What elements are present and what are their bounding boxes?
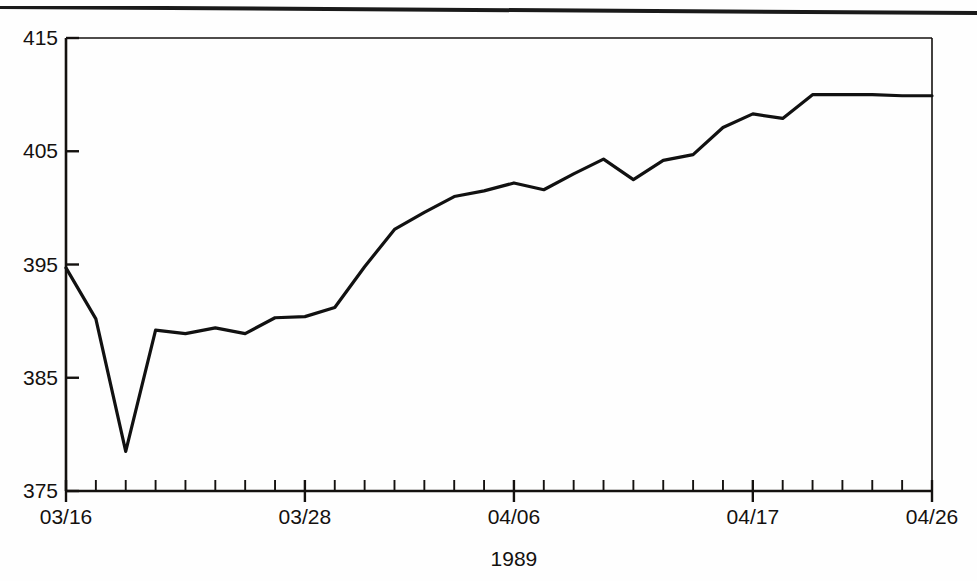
x-axis-tick-label: 04/17 xyxy=(727,505,780,528)
x-axis-tick-label: 04/06 xyxy=(488,505,541,528)
y-axis-tick-label: 375 xyxy=(23,479,58,502)
x-axis-tick-label: 03/16 xyxy=(40,505,93,528)
line-chart: 375385395405415 03/1603/2804/0604/1704/2… xyxy=(0,0,977,581)
y-axis: 375385395405415 xyxy=(23,26,79,502)
chart-page: 375385395405415 03/1603/2804/0604/1704/2… xyxy=(0,0,977,581)
data-series xyxy=(66,95,932,452)
x-axis-tick-label: 03/28 xyxy=(279,505,332,528)
y-axis-tick-label: 395 xyxy=(23,253,58,276)
y-axis-tick-label: 415 xyxy=(23,26,58,49)
series-line xyxy=(66,95,932,452)
y-axis-tick-label: 405 xyxy=(23,139,58,162)
x-axis-title: 1989 xyxy=(491,547,538,570)
x-axis: 03/1603/2804/0604/1704/26 xyxy=(40,480,959,528)
plot-frame xyxy=(66,38,932,491)
y-axis-tick-label: 385 xyxy=(23,366,58,389)
x-axis-tick-label: 04/26 xyxy=(906,505,959,528)
